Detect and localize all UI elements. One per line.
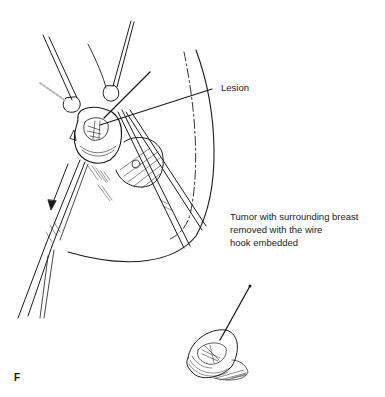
illustration-svg [0, 0, 385, 397]
clamp-right [88, 21, 134, 101]
incision-line [168, 52, 196, 240]
surgical-illustration: Lesion Tumor with surrounding breast rem… [0, 0, 385, 397]
tumor-caption: Tumor with surrounding breast removed wi… [230, 210, 380, 249]
tumor-caption-line-1: Tumor with surrounding breast [230, 210, 380, 223]
specimen-wire [220, 286, 250, 340]
forceps-right [118, 110, 206, 248]
lesion-leader-line [100, 89, 212, 125]
lesion-label: Lesion [221, 81, 249, 94]
clamp-left [40, 35, 80, 112]
tissue-shading [88, 166, 112, 201]
tumor-caption-line-2: removed with the wire [230, 223, 380, 236]
pull-direction-arrow [48, 164, 68, 210]
excised-specimen [187, 285, 252, 381]
lesion-mass [70, 107, 122, 163]
panel-letter: F [14, 372, 20, 383]
forceps-left [18, 160, 88, 318]
tumor-caption-line-3: hook embedded [230, 236, 380, 249]
